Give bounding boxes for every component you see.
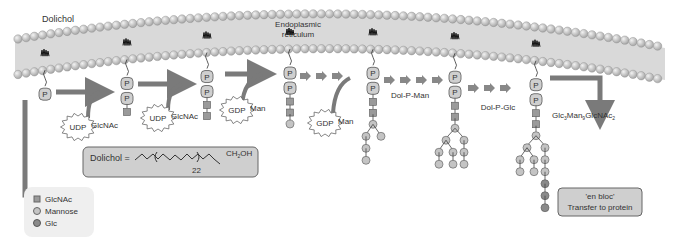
- phosphate: P: [201, 71, 213, 83]
- glcnac-unit: [370, 98, 377, 105]
- svg-text:P: P: [287, 84, 292, 93]
- er-label-1: Endoplasmic: [275, 20, 321, 29]
- svg-text:P: P: [452, 73, 457, 82]
- dolichol-pathway-diagram: Dolichol Endoplasmic reticulum PPPPPPPPP…: [0, 0, 674, 250]
- dol-p-glc-label: Dol-P-Glc: [481, 103, 516, 112]
- dol-p-man-label: Dol-P-Man: [391, 91, 429, 100]
- svg-text:P: P: [124, 94, 129, 103]
- mannose-unit: [435, 160, 443, 168]
- mannose-unit: [530, 168, 538, 176]
- phosphate: P: [39, 88, 51, 100]
- mannose-legend-icon: [34, 208, 41, 215]
- mannose-unit: [516, 168, 524, 176]
- repeat-count: 22: [192, 166, 201, 175]
- svg-text:P: P: [533, 96, 538, 105]
- mannose-unit: [286, 120, 294, 128]
- svg-text:P: P: [124, 79, 129, 88]
- glcnac-unit: [204, 102, 211, 109]
- phosphate: P: [530, 94, 542, 106]
- svg-text:GDP: GDP: [228, 106, 245, 115]
- glcnac-unit: [204, 113, 211, 120]
- glcnac-unit: [452, 102, 459, 109]
- svg-text:Man: Man: [338, 117, 354, 126]
- mannose-unit: [449, 160, 457, 168]
- transfer-line-1: 'en bloc': [586, 192, 615, 201]
- phosphate: P: [449, 71, 461, 83]
- mannose-unit: [377, 132, 385, 140]
- formula-prefix: Dolichol =: [90, 153, 130, 163]
- legend: GlcNAc Mannose Glc: [24, 187, 94, 237]
- svg-text:P: P: [204, 88, 209, 97]
- transfer-line-2: Transfer to protein: [567, 203, 632, 212]
- step-arrows: [300, 71, 511, 93]
- svg-text:P: P: [287, 69, 292, 78]
- product-label: Glc3Man9GlcNAc2: [552, 111, 615, 121]
- glcnac-legend-icon: [34, 196, 40, 202]
- svg-text:UDP: UDP: [70, 123, 87, 132]
- phosphate: P: [121, 77, 133, 89]
- glcnac-unit: [287, 98, 294, 105]
- phosphate: P: [367, 82, 379, 94]
- phosphate: P: [284, 82, 296, 94]
- svg-text:P: P: [204, 73, 209, 82]
- svg-text:GlcNAc: GlcNAc: [91, 121, 118, 130]
- phosphate: P: [367, 67, 379, 79]
- nucleotide-sugar-donor: GDPMan: [308, 109, 354, 136]
- svg-text:UDP: UDP: [150, 114, 167, 123]
- mannose-unit: [460, 160, 468, 168]
- svg-text:P: P: [533, 81, 538, 90]
- phosphate: P: [121, 92, 133, 104]
- glc-legend-icon: [34, 220, 41, 227]
- svg-text:Man: Man: [250, 104, 266, 113]
- svg-text:P: P: [370, 69, 375, 78]
- svg-text:GlcNAc: GlcNAc: [171, 112, 198, 121]
- glc-unit: [541, 204, 549, 212]
- glcnac-unit: [124, 108, 131, 115]
- phosphate: P: [449, 86, 461, 98]
- transfer-box: 'en bloc' Transfer to protein: [558, 188, 642, 216]
- svg-text:P: P: [370, 84, 375, 93]
- legend-glc: Glc: [45, 219, 57, 228]
- phosphate: P: [530, 79, 542, 91]
- glcnac-unit: [533, 110, 540, 117]
- phosphate: P: [201, 86, 213, 98]
- svg-text:P: P: [42, 90, 47, 99]
- legend-glcnac: GlcNAc: [45, 195, 72, 204]
- legend-mannose: Mannose: [45, 207, 78, 216]
- dolichol-label: Dolichol: [42, 14, 74, 24]
- mannose-unit: [362, 156, 370, 164]
- nucleotide-sugar-donor: GDPMan: [220, 96, 266, 123]
- svg-text:GDP: GDP: [316, 119, 333, 128]
- dolichol-formula-box: Dolichol = 22 CH2OH: [83, 147, 258, 177]
- phosphate: P: [284, 67, 296, 79]
- svg-text:P: P: [452, 88, 457, 97]
